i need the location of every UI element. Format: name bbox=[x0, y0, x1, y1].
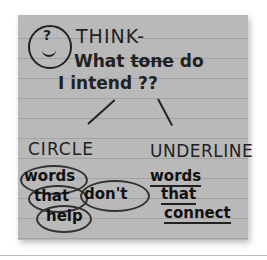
header-line-3: I intend ?? bbox=[58, 73, 158, 93]
underline-heading: UNDERLINE bbox=[150, 141, 253, 161]
question-mark-icon: ? bbox=[43, 27, 51, 43]
text-do: do bbox=[174, 51, 204, 71]
surface-edge bbox=[0, 255, 267, 256]
text-tone-struck: tone bbox=[130, 51, 173, 71]
header-line-2: What tone do bbox=[74, 51, 204, 71]
circled-word: that bbox=[34, 187, 69, 205]
underlined-word: connect bbox=[164, 204, 231, 224]
circled-word: help bbox=[46, 207, 83, 225]
underlined-word: that bbox=[161, 185, 196, 205]
circled-word: words bbox=[24, 167, 75, 185]
text-what: What bbox=[74, 51, 130, 71]
circled-word: don't bbox=[84, 185, 127, 203]
underlined-word: words bbox=[150, 167, 201, 187]
left-branch-line bbox=[87, 99, 115, 125]
thinking-face-icon: ? bbox=[28, 25, 72, 69]
right-branch-line bbox=[157, 99, 173, 126]
header-line-1: THINK- bbox=[76, 25, 145, 47]
sticky-note: ? THINK- What tone do I intend ?? CIRCLE… bbox=[18, 15, 248, 240]
smile-icon bbox=[42, 47, 56, 57]
circle-heading: CIRCLE bbox=[28, 139, 94, 159]
